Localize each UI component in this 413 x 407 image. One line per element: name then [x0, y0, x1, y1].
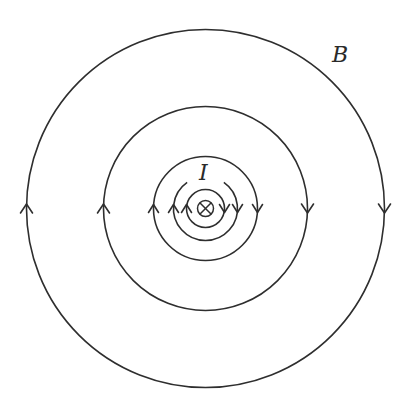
magnetic-field-diagram: I B	[0, 0, 413, 407]
current-label: I	[198, 160, 209, 185]
field-label: B	[331, 42, 348, 67]
current-into-page-icon	[198, 201, 214, 217]
